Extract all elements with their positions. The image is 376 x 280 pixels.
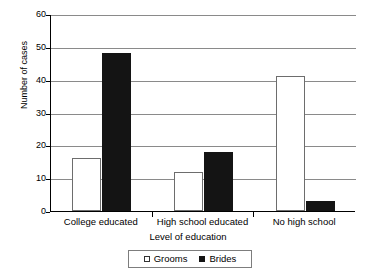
- bar-grooms-1: [174, 172, 203, 211]
- gridline: [51, 81, 356, 82]
- plot-area: [50, 15, 355, 212]
- x-axis-title: Level of education: [0, 231, 376, 242]
- legend-swatch-open-square-icon: [144, 256, 150, 262]
- legend-item-brides[interactable]: Brides: [199, 254, 236, 264]
- y-tick-label: 50: [22, 43, 46, 52]
- bar-brides-0: [102, 53, 131, 211]
- x-tick-label: High school educated: [152, 216, 254, 227]
- y-tick-label: 0: [22, 207, 46, 216]
- x-tick-label: No high school: [253, 216, 355, 227]
- legend-swatch-filled-square-icon: [199, 256, 205, 262]
- gridline: [51, 15, 356, 16]
- legend-label-brides: Brides: [209, 254, 236, 264]
- y-tick-label: 60: [22, 10, 46, 19]
- bar-brides-1: [204, 152, 233, 211]
- y-tick-label: 10: [22, 174, 46, 183]
- bar-brides-2: [306, 201, 335, 211]
- chart-legend: Grooms Brides: [128, 250, 252, 268]
- y-tick-label: 20: [22, 141, 46, 150]
- legend-label-grooms: Grooms: [154, 254, 188, 264]
- gridline: [51, 146, 356, 147]
- y-tick-label: 30: [22, 109, 46, 118]
- bar-chart: Number of cases 0102030405060 College ed…: [0, 0, 376, 280]
- legend-item-grooms[interactable]: Grooms: [144, 254, 188, 264]
- bar-grooms-0: [72, 158, 101, 211]
- y-tick-label: 40: [22, 76, 46, 85]
- x-tick-label: College educated: [50, 216, 152, 227]
- y-tick-mark: [46, 212, 50, 213]
- bar-grooms-2: [276, 76, 305, 211]
- gridline: [51, 114, 356, 115]
- gridline: [51, 48, 356, 49]
